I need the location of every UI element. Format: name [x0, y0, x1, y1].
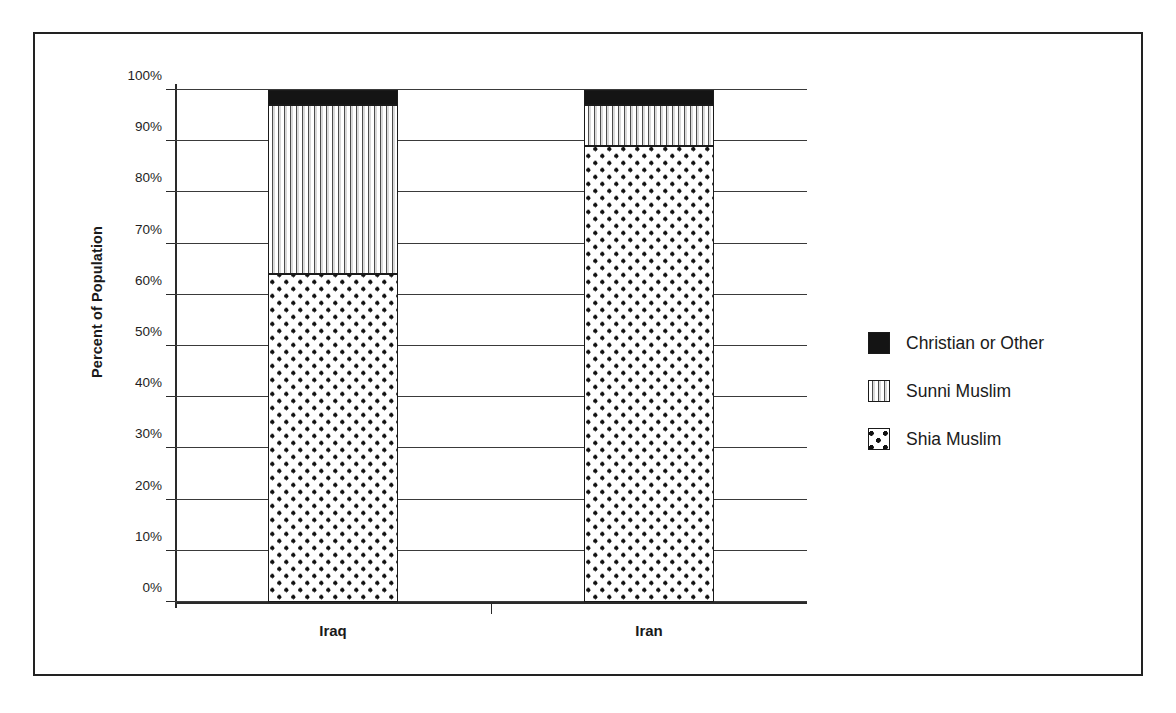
legend-item[interactable]: Sunni Muslim: [868, 367, 1118, 415]
y-axis-tick-label: 10%: [135, 528, 162, 543]
bar-segment-sunni-muslim[interactable]: [268, 105, 398, 274]
x-axis-label-iraq: Iraq: [175, 622, 491, 639]
y-axis-tick-mark: [166, 396, 175, 397]
bar-iran[interactable]: [584, 90, 714, 602]
y-axis-tick-mark: [166, 243, 175, 244]
legend-label: Christian or Other: [906, 333, 1044, 354]
y-axis-tick-mark: [166, 499, 175, 500]
y-axis-tick-label: 80%: [135, 170, 162, 185]
y-axis-tick-mark: [166, 550, 175, 551]
bar-segment-shia-muslim[interactable]: [268, 274, 398, 602]
legend-item[interactable]: Shia Muslim: [868, 415, 1118, 463]
chart-legend: Christian or OtherSunni MuslimShia Musli…: [868, 319, 1118, 463]
y-axis-tick-label: 60%: [135, 272, 162, 287]
y-axis-tick-label: 40%: [135, 375, 162, 390]
y-axis-tick-mark: [166, 447, 175, 448]
y-axis-line: [175, 84, 177, 608]
y-axis-tick-mark: [166, 294, 175, 295]
bar-segment-christian-or-other[interactable]: [268, 90, 398, 105]
y-axis-tick-mark: [166, 345, 175, 346]
legend-label: Shia Muslim: [906, 429, 1001, 450]
y-axis-tick-label: 20%: [135, 477, 162, 492]
y-axis-tick-label: 100%: [127, 68, 162, 83]
y-axis-tick-label: 70%: [135, 221, 162, 236]
legend-item[interactable]: Christian or Other: [868, 319, 1118, 367]
bar-iraq[interactable]: [268, 90, 398, 602]
chart-frame: Percent of Population 0%10%20%30%40%50%6…: [33, 32, 1143, 676]
x-axis-category-tick: [491, 604, 492, 614]
legend-swatch-icon: [868, 428, 890, 450]
y-axis-tick-mark: [166, 191, 175, 192]
legend-swatch-icon: [868, 332, 890, 354]
plot-area: 0%10%20%30%40%50%60%70%80%90%100% IraqIr…: [175, 88, 807, 604]
y-axis-tick-label: 0%: [142, 580, 162, 595]
y-axis-title: Percent of Population: [89, 192, 105, 412]
y-axis-tick-label: 90%: [135, 119, 162, 134]
x-axis-label-iran: Iran: [491, 622, 807, 639]
y-axis-tick-mark: [166, 89, 175, 90]
legend-swatch-icon: [868, 380, 890, 402]
bar-segment-shia-muslim[interactable]: [584, 146, 714, 602]
y-axis-tick-label: 50%: [135, 324, 162, 339]
legend-label: Sunni Muslim: [906, 381, 1011, 402]
bar-segment-christian-or-other[interactable]: [584, 90, 714, 105]
y-axis-tick-label: 30%: [135, 426, 162, 441]
y-axis-tick-mark: [166, 601, 175, 602]
y-axis-tick-mark: [166, 140, 175, 141]
bar-segment-sunni-muslim[interactable]: [584, 105, 714, 146]
